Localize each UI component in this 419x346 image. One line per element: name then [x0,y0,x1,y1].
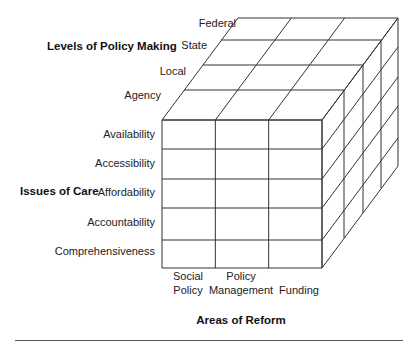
level-label-local: Local [160,65,186,78]
cube-gridline [322,106,398,208]
area-label-line1: Policy [206,270,276,283]
cube-gridline [322,77,398,179]
levels-axis-title: Levels of Policy Making [47,40,177,53]
issue-label-accountability: Accountability [87,216,155,229]
area-label-policy-management: Policy Management [206,270,276,297]
level-label-agency: Agency [124,89,161,102]
cube-gridline [322,47,398,149]
issue-label-affordability: Affordability [98,186,155,199]
issue-label-comprehensiveness: Comprehensiveness [55,245,155,258]
area-label-funding: Funding [270,270,328,297]
issues-axis-title: Issues of Care [20,185,99,198]
area-label-line2: Management [206,284,276,297]
level-label-federal: Federal [199,17,236,30]
areas-axis-title: Areas of Reform [181,314,301,327]
cube-gridline [322,138,398,240]
area-label-line2: Funding [270,284,328,297]
area-label-line1 [270,270,328,283]
bottom-divider [15,340,403,341]
issue-label-availability: Availability [103,128,155,141]
level-label-state: State [181,39,207,52]
issue-label-accessibility: Accessibility [95,157,155,170]
cube-gridline [322,166,398,268]
